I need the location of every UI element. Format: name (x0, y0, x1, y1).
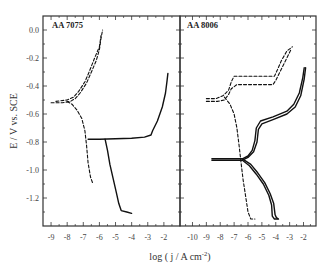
y-tick-label: -1.2 (26, 194, 39, 203)
x-tick-label: -5 (259, 233, 266, 242)
y-tick-label: 0.0 (29, 26, 39, 35)
x-tick-label: -3 (144, 233, 151, 242)
x-tick-label: -2 (300, 233, 307, 242)
x-tick-label: -7 (80, 233, 87, 242)
y-axis-label: E / V vs. SCE (8, 93, 19, 148)
x-tick-label: -9 (48, 233, 55, 242)
y-tick-label: -0.6 (26, 110, 39, 119)
x-tick-label: -10 (187, 233, 198, 242)
curve-dashed (56, 36, 101, 102)
x-tick-label: -5 (112, 233, 119, 242)
panel-title-aa7075: AA 7075 (52, 20, 83, 30)
x-tick-label: -4 (272, 233, 279, 242)
y-tick-label: -0.8 (26, 138, 39, 147)
right-panel-frame (180, 16, 316, 226)
x-tick-label: -8 (64, 233, 71, 242)
curve-dashed (206, 50, 291, 102)
polarization-chart: -9-8-7-6-5-4-3-2-10-9-8-7-6-5-4-3-20.0-0… (0, 0, 330, 269)
x-axis-label: log ( j / A cm-2) (149, 250, 210, 263)
x-tick-label: -2 (161, 233, 168, 242)
x-tick-label: -7 (231, 233, 238, 242)
x-tick-label: -6 (245, 233, 252, 242)
x-tick-label: -9 (203, 233, 210, 242)
curve-dashed (67, 101, 93, 184)
x-tick-label: -8 (217, 233, 224, 242)
y-tick-label: -0.2 (26, 54, 39, 63)
left-panel-frame (43, 16, 180, 226)
y-tick-label: -1.0 (26, 166, 39, 175)
x-tick-label: -6 (96, 233, 103, 242)
tick-labels: -9-8-7-6-5-4-3-2-10-9-8-7-6-5-4-3-20.0-0… (26, 26, 307, 242)
curve-solid (88, 73, 168, 139)
x-tick-label: -4 (128, 233, 135, 242)
curve-dashed (51, 30, 103, 103)
curve-solid (212, 68, 306, 160)
panel-title-aa8006: AA 8006 (187, 20, 218, 30)
curve-solid (212, 68, 304, 159)
x-tick-label: -3 (286, 233, 293, 242)
curve-solid (105, 139, 132, 213)
y-tick-label: -0.4 (26, 82, 39, 91)
